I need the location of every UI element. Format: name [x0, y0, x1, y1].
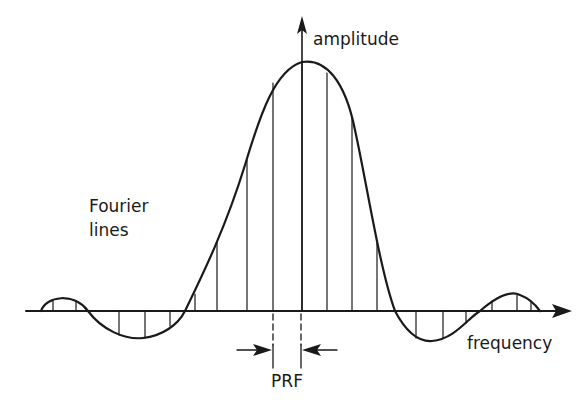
prf-label: PRF	[271, 371, 303, 391]
prf-dimension	[237, 314, 337, 368]
frequency-label: frequency	[467, 333, 552, 353]
spectrum-diagram: amplitude frequency Fourier lines PRF	[0, 0, 587, 410]
fourier-label-line2: lines	[89, 220, 129, 240]
amplitude-label: amplitude	[313, 29, 399, 49]
fourier-label-line1: Fourier	[89, 196, 149, 216]
